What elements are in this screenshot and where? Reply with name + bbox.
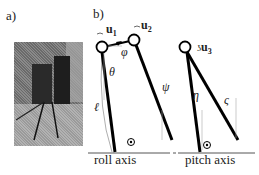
theta-label: θ <box>109 65 115 80</box>
leg-diagram <box>0 0 259 175</box>
phi-label: φ <box>121 45 128 60</box>
u1-label: u1 <box>106 22 117 38</box>
ell-label: ℓ <box>94 100 99 115</box>
u1-joint <box>97 42 108 53</box>
pitch-axis-label: pitch axis <box>185 152 235 168</box>
roll-axis-label: roll axis <box>94 152 136 168</box>
u2-joint <box>129 35 140 46</box>
u3-label: ʖu3 <box>197 40 212 56</box>
eta-label: η <box>193 88 199 103</box>
psi-label: ψ <box>162 80 169 95</box>
u3-joint <box>180 42 191 53</box>
u2-label: u2 <box>141 18 152 34</box>
zeta-label: ς <box>224 93 229 108</box>
